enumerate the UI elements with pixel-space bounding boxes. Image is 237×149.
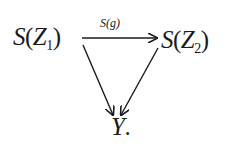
arg-symbol: Z xyxy=(33,23,46,50)
func-symbol: S xyxy=(161,26,173,53)
period: . xyxy=(124,113,130,140)
paren-close: ) xyxy=(201,26,209,53)
y-symbol: Y xyxy=(111,113,124,140)
arrow-sz1-to-y xyxy=(83,45,113,115)
paren-open: ( xyxy=(25,23,33,50)
arrow-sz2-to-y xyxy=(121,48,158,115)
arg-symbol: Z xyxy=(181,26,194,53)
paren-close: ) xyxy=(53,23,61,50)
node-s-z1: S(Z1) xyxy=(13,24,61,49)
paren-open: ( xyxy=(173,26,181,53)
node-y: Y. xyxy=(111,114,130,139)
edge-label-s-g: S(g) xyxy=(100,17,120,29)
func-symbol: S xyxy=(13,23,25,50)
node-s-z2: S(Z2) xyxy=(161,27,209,52)
